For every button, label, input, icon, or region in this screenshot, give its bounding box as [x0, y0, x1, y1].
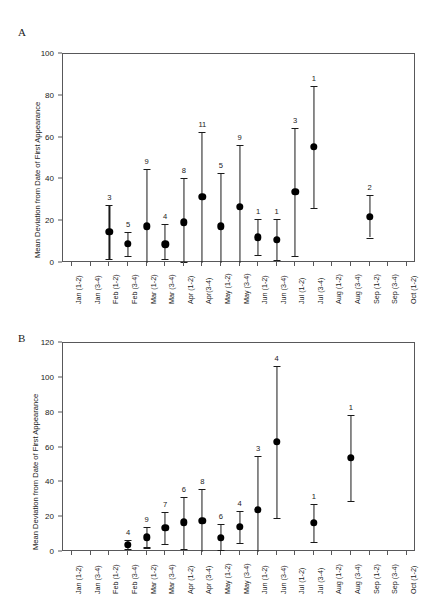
- data-point-marker: [199, 517, 206, 524]
- panel-b-x-tick-label: Feb (1-2): [111, 564, 120, 594]
- panel-a-x-tick-mark: [387, 262, 388, 266]
- error-bar-cap-upper: [292, 128, 299, 129]
- sample-size-label: 3: [107, 193, 111, 202]
- error-bar-cap-upper: [106, 205, 113, 206]
- data-point-marker: [217, 223, 224, 230]
- panel-a-x-tick-mark: [201, 262, 202, 266]
- panel-a-y-tick-mark: [58, 262, 62, 263]
- panel-b-x-tick-label: Feb (3-4): [130, 564, 139, 594]
- sample-size-label: 5: [126, 220, 130, 229]
- sample-size-label: 1: [312, 74, 316, 83]
- error-bar-cap-upper: [366, 195, 373, 196]
- data-point-marker: [161, 524, 168, 531]
- error-bar-cap-upper: [310, 504, 317, 505]
- panel-b-y-tick-mark: [58, 376, 62, 377]
- panel-b-x-tick-label: Jul (3-4): [316, 568, 325, 594]
- panel-a-x-tick-mark: [146, 262, 147, 266]
- data-point-marker: [161, 240, 168, 247]
- data-point-marker: [143, 223, 150, 230]
- panel-b-y-tick-mark: [58, 516, 62, 517]
- data-point-marker: [273, 236, 280, 243]
- error-bar-cap-lower: [125, 549, 132, 550]
- panel-b-y-tick-label: 60: [0, 442, 54, 451]
- error-bar-cap-upper: [180, 497, 187, 498]
- error-bar-cap-lower: [292, 256, 299, 257]
- sample-size-label: 6: [182, 485, 186, 494]
- error-bar-cap-upper: [310, 86, 317, 87]
- panel-b-x-tick-mark: [220, 551, 221, 555]
- data-point-marker: [366, 213, 373, 220]
- panel-b-x-tick-label: Oct (1-2): [409, 566, 418, 594]
- panel-b-x-tick-label: Jan (1-2): [74, 565, 83, 594]
- data-point-marker: [124, 541, 131, 548]
- error-bar-cap-upper: [217, 173, 224, 174]
- data-point-marker: [273, 438, 280, 445]
- error-bar-cap-upper: [255, 456, 262, 457]
- sample-size-label: 6: [219, 512, 223, 521]
- panel-b-y-tick-mark: [58, 342, 62, 343]
- panel-b-x-tick-mark: [71, 551, 72, 555]
- sample-size-label: 4: [237, 499, 241, 508]
- panel-b-x-tick-mark: [313, 551, 314, 555]
- panel-b-x-tick-label: May (1-2): [223, 563, 232, 594]
- panel-b-x-tick-mark: [350, 551, 351, 555]
- error-bar-cap-upper: [273, 219, 280, 220]
- error-bar-cap-upper: [180, 178, 187, 179]
- panel-b-x-tick-label: Aug (3-4): [353, 564, 362, 594]
- error-bar-cap-upper: [236, 145, 243, 146]
- panel-b-series-layer: 49768643411: [63, 343, 414, 550]
- panel-a-y-tick-label: 80: [0, 90, 54, 99]
- data-point-marker: [236, 203, 243, 210]
- panel-a-y-tick-mark: [58, 94, 62, 95]
- data-point-marker: [254, 234, 261, 241]
- panel-b-plot-area: 49768643411: [62, 342, 415, 551]
- panel-a-y-tick-label: 60: [0, 132, 54, 141]
- sample-size-label: 3: [293, 116, 297, 125]
- sample-size-label: 8: [182, 166, 186, 175]
- panel-b-y-tick-label: 120: [0, 338, 54, 347]
- sample-size-label: 1: [312, 492, 316, 501]
- error-bar-cap-lower: [180, 262, 187, 263]
- panel-a-y-tick-mark: [58, 178, 62, 179]
- error-bar-cap-lower: [125, 256, 132, 257]
- sample-size-label: 5: [219, 161, 223, 170]
- panel-b-x-tick-mark: [90, 551, 91, 555]
- error-bar-cap-upper: [199, 489, 206, 490]
- sample-size-label: 3: [256, 444, 260, 453]
- error-bar-cap-upper: [236, 511, 243, 512]
- data-point-marker: [199, 193, 206, 200]
- sample-size-label: 2: [367, 183, 371, 192]
- panel-a-x-tick-mark: [294, 262, 295, 266]
- data-point-marker: [106, 228, 113, 235]
- panel-a-x-tick-mark: [183, 262, 184, 266]
- panel-b-x-tick-mark: [183, 551, 184, 555]
- panel-b-x-tick-mark: [201, 551, 202, 555]
- panel-a-y-tick-mark: [58, 53, 62, 54]
- panel-a-x-tick-mark: [313, 262, 314, 266]
- data-point-marker: [180, 519, 187, 526]
- error-bar-cap-lower: [310, 542, 317, 543]
- error-bar-cap-lower: [310, 208, 317, 209]
- sample-size-label: 4: [163, 212, 167, 221]
- panel-a-x-tick-mark: [90, 262, 91, 266]
- error-bar-cap-lower: [162, 544, 169, 545]
- panel-b-x-tick-mark: [369, 551, 370, 555]
- error-bar-cap-lower: [236, 543, 243, 544]
- error-bar-cap-lower: [162, 259, 169, 260]
- panel-b-y-tick-label: 20: [0, 512, 54, 521]
- error-bar-cap-upper: [143, 169, 150, 170]
- sample-size-label: 9: [144, 157, 148, 166]
- panel-b-x-tick-mark: [406, 551, 407, 555]
- panel-a-y-tick-mark: [58, 220, 62, 221]
- panel-b-x-tick-label: May (3-4): [242, 563, 251, 594]
- panel-b-x-tick-mark: [257, 551, 258, 555]
- error-bar-cap-upper: [347, 415, 354, 416]
- error-bar-cap-lower: [180, 549, 187, 550]
- panel-b-y-tick-label: 0: [0, 547, 54, 556]
- panel-b-y-tick-mark: [58, 551, 62, 552]
- error-bar-line: [220, 173, 221, 263]
- sample-size-label: 9: [237, 133, 241, 142]
- panel-b-y-tick-label: 80: [0, 407, 54, 416]
- error-bar-cap-lower: [366, 238, 373, 239]
- panel-b-x-tick-mark: [108, 551, 109, 555]
